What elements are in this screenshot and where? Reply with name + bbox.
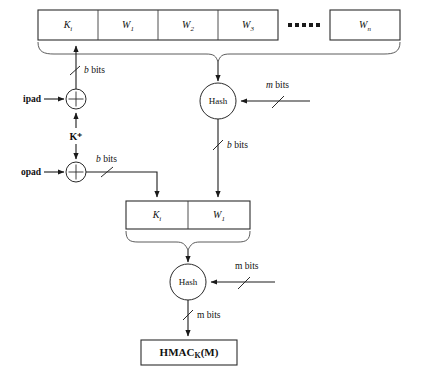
wire-opad-to-mid-ki bbox=[86, 172, 157, 197]
output-box-group: HMACK(M) bbox=[141, 340, 237, 365]
hash-bottom-group: Hash m bits m bits bbox=[170, 250, 275, 336]
top-block-label-w2: W2 bbox=[182, 19, 194, 32]
label-ipad: ipad bbox=[23, 94, 42, 104]
mid-brace bbox=[126, 231, 250, 250]
label-m-bits-bottom-in: m bits bbox=[235, 261, 259, 271]
label-m-bits-output: m bits bbox=[197, 310, 221, 320]
hmac-diagram-canvas: Ki W1 W2 W3 Wn bbox=[0, 0, 422, 381]
hash-top-group: Hash m bits b bits bbox=[200, 62, 310, 197]
label-m-bits-top: m bits bbox=[266, 80, 289, 90]
top-brace bbox=[38, 42, 400, 62]
label-k-plus: K⁺ bbox=[70, 131, 83, 142]
slash-b-bits-ipad bbox=[70, 66, 80, 75]
mid-block-label-w1: W1 bbox=[213, 209, 225, 222]
output-label: HMACK(M) bbox=[160, 346, 219, 360]
k-plus-spine: K⁺ bbox=[70, 113, 83, 159]
top-block-label-wn: Wn bbox=[359, 19, 371, 32]
label-b-bits-hash-out: b bits bbox=[227, 140, 248, 150]
label-b-bits-opad: b bits bbox=[96, 154, 117, 164]
hash-bottom-label: Hash bbox=[179, 277, 198, 287]
slash-m-bits-bottom-in bbox=[238, 277, 250, 289]
label-b-bits-ipad: b bits bbox=[84, 65, 105, 75]
opad-branch: opad b bits bbox=[21, 154, 157, 197]
top-block-label-w1: W1 bbox=[122, 19, 134, 32]
mid-block-row: Ki W1 bbox=[126, 201, 250, 229]
slash-m-bits-top bbox=[272, 96, 284, 108]
top-block-row: Ki W1 W2 W3 Wn bbox=[38, 10, 400, 40]
label-opad: opad bbox=[21, 167, 42, 177]
mid-block-label-ki: Ki bbox=[152, 209, 162, 222]
top-block-label-ki: Ki bbox=[63, 19, 73, 32]
hmac-diagram: Ki W1 W2 W3 Wn bbox=[0, 0, 422, 381]
top-block-label-w3: W3 bbox=[242, 19, 254, 32]
ellipsis-dots bbox=[288, 23, 320, 27]
ipad-branch: b bits ipad bbox=[23, 46, 105, 109]
hash-top-label: Hash bbox=[209, 96, 228, 106]
